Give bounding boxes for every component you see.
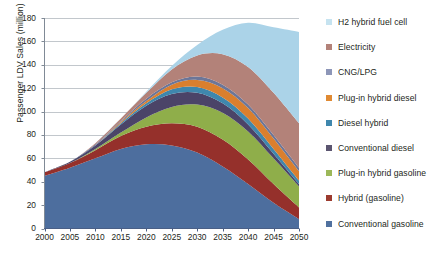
legend-swatch (326, 44, 332, 50)
legend-label: Electricity (338, 42, 375, 52)
y-tick-label: 180 (2, 14, 36, 23)
legend-label: Plug-in hybrid gasoline (338, 168, 426, 178)
y-tick-label: 60 (2, 154, 36, 163)
legend-item: Conventional gasoline (326, 218, 424, 230)
legend-label: H2 hybrid fuel cell (338, 17, 407, 27)
legend-label: Hybrid (gasoline) (338, 193, 404, 203)
legend-swatch (326, 221, 332, 227)
legend-item: Conventional diesel (326, 142, 414, 154)
legend-label: Plug-in hybrid diesel (338, 93, 416, 103)
legend-item: Diesel hybrid (326, 117, 388, 129)
y-tick-label: 20 (2, 201, 36, 210)
legend-swatch (326, 195, 332, 201)
chart-legend: H2 hybrid fuel cellElectricityCNG/LPGPlu… (326, 16, 446, 242)
legend-swatch (326, 19, 332, 25)
plot-area: Passenger LDV Sales (million) 1801601401… (0, 0, 302, 253)
y-tick-label: 100 (2, 107, 36, 116)
stacked-area-plot (0, 0, 302, 253)
y-tick-label: 80 (2, 130, 36, 139)
legend-item: Hybrid (gasoline) (326, 192, 404, 204)
legend-item: H2 hybrid fuel cell (326, 16, 407, 28)
legend-item: CNG/LPG (326, 66, 377, 78)
legend-label: Conventional diesel (338, 143, 414, 153)
legend-swatch (326, 170, 332, 176)
legend-swatch (326, 69, 332, 75)
y-tick-label: 160 (2, 37, 36, 46)
legend-label: Diesel hybrid (338, 118, 388, 128)
legend-item: Plug-in hybrid gasoline (326, 167, 426, 179)
legend-label: CNG/LPG (338, 67, 377, 77)
legend-item: Electricity (326, 41, 375, 53)
area-series-group (45, 23, 300, 229)
chart-figure: Passenger LDV Sales (million) 1801601401… (0, 0, 446, 253)
x-tick-label: 2050 (284, 233, 314, 242)
legend-swatch (326, 145, 332, 151)
legend-swatch (326, 95, 332, 101)
legend-item: Plug-in hybrid diesel (326, 92, 416, 104)
y-tick-label: 140 (2, 60, 36, 69)
y-tick-label: 40 (2, 177, 36, 186)
legend-swatch (326, 120, 332, 126)
y-tick-label: 120 (2, 84, 36, 93)
legend-label: Conventional gasoline (338, 219, 424, 229)
